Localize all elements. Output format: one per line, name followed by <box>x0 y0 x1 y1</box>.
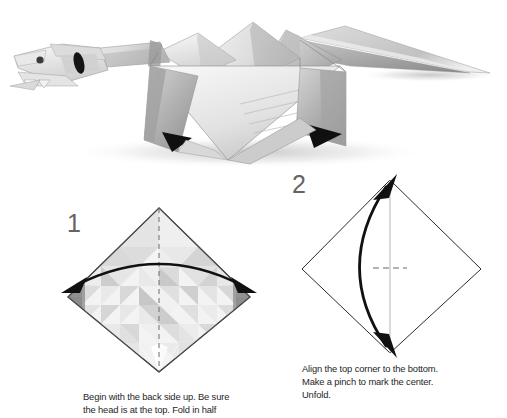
step-2-diagram-svg <box>285 160 500 360</box>
dragon-nostril-icon <box>36 56 43 63</box>
step-1-diagram-svg <box>55 195 270 385</box>
step-2-diagram <box>285 160 500 360</box>
step-1-caption: Begin with the back side up. Be sure the… <box>83 390 293 416</box>
step-2-paper-square <box>302 180 481 353</box>
dragon-photo-svg <box>0 0 507 180</box>
step-1-diagram <box>55 195 270 385</box>
step-2-caption: Align the top corner to the bottom. Make… <box>302 362 502 402</box>
origami-dragon-photo <box>0 0 507 180</box>
instruction-page: 1 <box>0 0 507 418</box>
